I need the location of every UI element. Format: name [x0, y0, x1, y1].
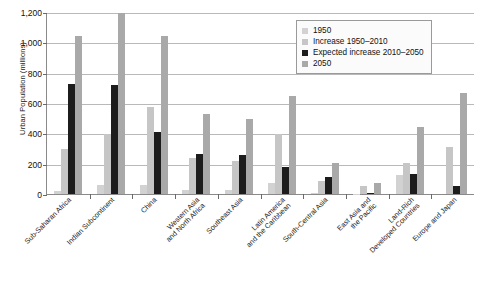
bar [232, 161, 239, 194]
bar [460, 93, 467, 194]
bar-group [218, 13, 261, 194]
bar [275, 134, 282, 194]
bar [410, 174, 417, 194]
bar [61, 149, 68, 194]
legend-item: 2050 [302, 58, 424, 69]
bar [396, 175, 403, 194]
bar [282, 167, 289, 194]
bar [325, 177, 332, 194]
legend-item: Expected increase 2010–2050 [302, 47, 424, 58]
x-axis-label: China [140, 196, 159, 215]
legend-label: 2050 [313, 59, 331, 68]
legend-swatch-icon [302, 28, 308, 34]
bar [268, 183, 275, 194]
bar [161, 36, 168, 194]
y-tick-label: 800 [28, 69, 42, 79]
bar [403, 163, 410, 194]
x-axis-labels: Sub-Saharan AfricaIndian SubcontinentChi… [46, 196, 474, 288]
bar-group [175, 13, 218, 194]
legend-item: Increase 1950–2010 [302, 36, 424, 47]
chart-legend: 1950Increase 1950–2010Expected increase … [296, 20, 432, 74]
bar [374, 183, 381, 194]
bar [54, 191, 61, 194]
y-tick-label: 400 [28, 129, 42, 139]
legend-swatch-icon [302, 50, 308, 56]
bar [332, 163, 339, 194]
y-tick-label: 600 [28, 99, 42, 109]
legend-label: 1950 [313, 26, 331, 35]
bar [203, 114, 210, 194]
bar [453, 186, 460, 194]
chart-figure: Urban Population (millions) 020040060080… [0, 0, 484, 288]
bar [118, 13, 125, 194]
bar-group [132, 13, 175, 194]
bar [68, 84, 75, 194]
bar [104, 134, 111, 194]
legend-swatch-icon [302, 39, 308, 45]
y-tick-label: 1,000 [21, 38, 42, 48]
bar [225, 190, 232, 194]
bar [97, 185, 104, 194]
bar [446, 147, 453, 195]
y-tick-label: 1,200 [21, 8, 42, 18]
legend-label: Expected increase 2010–2050 [313, 48, 424, 57]
bar [367, 193, 374, 194]
bar [311, 193, 318, 195]
bar [318, 181, 325, 194]
x-axis-label: Indian Subcontinent [65, 196, 116, 247]
bar [360, 186, 367, 194]
bar [111, 85, 118, 194]
y-tick-label: 0 [37, 190, 42, 200]
x-axis-label: Western Asia and North Africa [159, 196, 207, 244]
x-axis-label: Southeast Asia [205, 196, 245, 236]
legend-item: 1950 [302, 25, 424, 36]
bar-group [431, 13, 474, 194]
bar [239, 155, 246, 194]
bar [417, 127, 424, 194]
bar [75, 36, 82, 194]
legend-label: Increase 1950–2010 [313, 37, 388, 46]
bar-group [47, 13, 90, 194]
y-axis-title: Urban Population (millions) [18, 9, 27, 169]
bar [154, 132, 161, 194]
bar [246, 119, 253, 194]
legend-swatch-icon [302, 61, 308, 67]
bar [147, 107, 154, 194]
y-tick-label: 200 [28, 160, 42, 170]
bar [140, 185, 147, 194]
bar [182, 190, 189, 194]
bar [289, 96, 296, 194]
bar [189, 158, 196, 194]
bar-group [90, 13, 133, 194]
bar [196, 154, 203, 194]
